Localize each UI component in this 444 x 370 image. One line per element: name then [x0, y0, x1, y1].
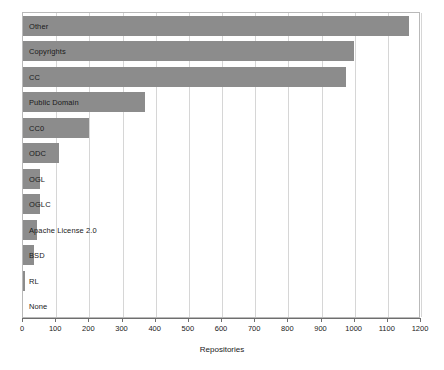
bar-row[interactable]: Public Domain [23, 92, 419, 112]
bar-row[interactable]: BSD [23, 245, 419, 265]
plot-area: OtherCopyrightsCCPublic DomainCC0ODCOGLO… [22, 12, 420, 318]
bar-row[interactable]: CC [23, 67, 419, 87]
bar-row[interactable]: OGL [23, 169, 419, 189]
x-tick-label: 500 [182, 324, 195, 333]
x-tick-label: 900 [314, 324, 327, 333]
bar [23, 41, 354, 61]
repositories-bar-chart: OtherCopyrightsCCPublic DomainCC0ODCOGLO… [0, 0, 444, 370]
bar-row[interactable]: OGLC [23, 194, 419, 214]
bar [23, 271, 25, 291]
x-tick-mark [221, 318, 222, 322]
x-axis-ticks: 0100200300400500600700800900100011001200 [22, 318, 420, 342]
bar-row[interactable]: RL [23, 271, 419, 291]
bar-category-label: ODC [29, 149, 46, 158]
bar-category-label: CC0 [29, 123, 44, 132]
bar-row[interactable]: CC0 [23, 118, 419, 138]
x-axis-title: Repositories [0, 345, 444, 354]
x-tick-mark [287, 318, 288, 322]
bar-category-label: OGL [29, 174, 45, 183]
x-tick-mark [387, 318, 388, 322]
x-tick-mark [420, 318, 421, 322]
bar-category-label: None [29, 302, 47, 311]
bar-row[interactable]: Apache License 2.0 [23, 220, 419, 240]
bar-category-label: Apache License 2.0 [29, 225, 97, 234]
x-tick-label: 700 [248, 324, 261, 333]
bar-category-label: OGLC [29, 200, 51, 209]
x-tick-label: 300 [115, 324, 128, 333]
x-tick-mark [122, 318, 123, 322]
x-tick-mark [55, 318, 56, 322]
x-tick-label: 600 [215, 324, 228, 333]
x-tick-mark [354, 318, 355, 322]
x-tick-mark [254, 318, 255, 322]
x-tick-label: 200 [82, 324, 95, 333]
x-tick-mark [155, 318, 156, 322]
bar [23, 16, 409, 36]
x-tick-label: 1100 [379, 324, 395, 333]
bar-row[interactable]: ODC [23, 143, 419, 163]
bar-category-label: Public Domain [29, 98, 79, 107]
x-tick-label: 0 [20, 324, 24, 333]
bar-row[interactable]: Copyrights [23, 41, 419, 61]
bar-category-label: Other [29, 21, 48, 30]
bar-category-label: CC [29, 72, 40, 81]
bar-row[interactable]: None [23, 296, 419, 316]
x-tick-label: 1200 [412, 324, 429, 333]
x-tick-mark [22, 318, 23, 322]
x-tick-label: 400 [148, 324, 161, 333]
x-tick-label: 800 [281, 324, 294, 333]
x-tick-mark [88, 318, 89, 322]
x-tick-label: 100 [49, 324, 62, 333]
gridline [421, 13, 422, 317]
x-tick-mark [321, 318, 322, 322]
bar-category-label: Copyrights [29, 47, 66, 56]
x-tick-mark [188, 318, 189, 322]
bar [23, 67, 346, 87]
bar-category-label: RL [29, 276, 39, 285]
bar-row[interactable]: Other [23, 16, 419, 36]
x-tick-label: 1000 [345, 324, 362, 333]
bars-layer: OtherCopyrightsCCPublic DomainCC0ODCOGLO… [23, 13, 419, 317]
bar-category-label: BSD [29, 251, 45, 260]
